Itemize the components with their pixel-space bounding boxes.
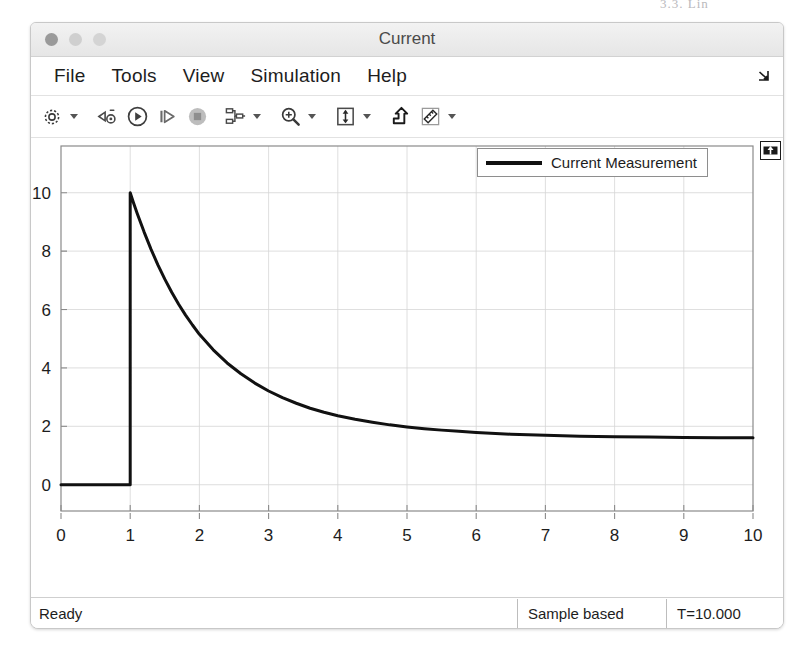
pin-to-top-icon[interactable] (760, 141, 781, 160)
zoom-in-icon[interactable] (276, 103, 304, 131)
cursor-measurements-caret[interactable] (445, 105, 459, 129)
scope-plot-area: 0123456789100246810 Current Measurement (31, 138, 783, 600)
svg-text:6: 6 (42, 301, 51, 320)
legend-label: Current Measurement (551, 154, 697, 171)
svg-text:2: 2 (195, 526, 204, 545)
menubar: File Tools View Simulation Help (31, 57, 783, 96)
top-edge-artifact-text: 3.3. Lin (660, 0, 800, 14)
zoom-in-caret[interactable] (305, 105, 319, 129)
svg-text:6: 6 (471, 526, 480, 545)
svg-text:8: 8 (42, 242, 51, 261)
svg-text:1: 1 (125, 526, 134, 545)
svg-text:8: 8 (610, 526, 619, 545)
simulation-stepping-options-icon[interactable] (93, 103, 121, 131)
svg-text:9: 9 (679, 526, 688, 545)
menu-tools[interactable]: Tools (98, 65, 169, 87)
menu-overflow-arrow-icon[interactable] (755, 67, 773, 85)
window-titlebar: Current (31, 23, 783, 57)
svg-text:10: 10 (32, 184, 51, 203)
svg-text:4: 4 (42, 359, 51, 378)
menu-view[interactable]: View (170, 65, 238, 87)
svg-text:4: 4 (333, 526, 342, 545)
svg-text:0: 0 (42, 476, 51, 495)
status-time: T=10.000 (666, 599, 783, 628)
status-ready-label: Ready (31, 605, 517, 622)
statusbar: Ready Sample based T=10.000 (31, 597, 783, 628)
menu-help[interactable]: Help (354, 65, 420, 87)
menu-simulation[interactable]: Simulation (237, 65, 354, 87)
plot-canvas[interactable]: 0123456789100246810 (31, 138, 781, 600)
signal-selector-caret[interactable] (250, 105, 264, 129)
toolbar (31, 96, 783, 138)
svg-text:0: 0 (56, 526, 65, 545)
menu-file[interactable]: File (41, 65, 98, 87)
svg-text:5: 5 (402, 526, 411, 545)
configuration-properties-caret[interactable] (67, 105, 81, 129)
autoscale-caret[interactable] (360, 105, 374, 129)
svg-text:3: 3 (264, 526, 273, 545)
autoscale-icon[interactable] (331, 103, 359, 131)
status-sample-mode: Sample based (517, 599, 666, 628)
gridlines (61, 146, 753, 511)
cursor-measurements-icon[interactable] (416, 103, 444, 131)
tick-labels: 0123456789100246810 (32, 184, 762, 545)
svg-text:10: 10 (744, 526, 763, 545)
configuration-properties-icon[interactable] (38, 103, 66, 131)
run-button-icon[interactable] (123, 103, 151, 131)
step-forward-icon[interactable] (153, 103, 181, 131)
stop-button-icon[interactable] (183, 103, 211, 131)
signal-selector-icon[interactable] (221, 103, 249, 131)
svg-text:2: 2 (42, 417, 51, 436)
plot-legend[interactable]: Current Measurement (477, 148, 708, 177)
scope-window: Current File Tools View Simulation Help (30, 22, 784, 629)
svg-text:7: 7 (541, 526, 550, 545)
highlight-signal-icon[interactable] (386, 103, 414, 131)
legend-line-swatch (486, 161, 542, 165)
window-title: Current (31, 29, 783, 49)
